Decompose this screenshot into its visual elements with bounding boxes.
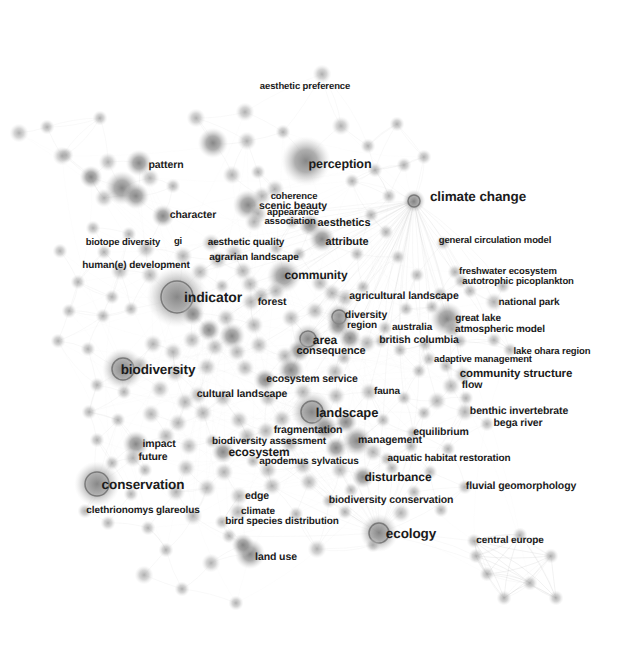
term-label[interactable]: ecosystem service <box>266 373 358 385</box>
term-label[interactable]: human(e) development <box>82 260 189 271</box>
term-label[interactable]: cultural landscape <box>197 388 287 400</box>
term-label[interactable]: edge <box>245 490 269 502</box>
term-label[interactable]: clethrionomys glareolus <box>86 505 199 516</box>
term-label[interactable]: community <box>284 268 347 282</box>
term-label[interactable]: biotope diversity <box>86 237 160 248</box>
term-label[interactable]: future <box>138 451 167 463</box>
term-label[interactable]: british columbia <box>379 334 459 346</box>
term-label[interactable]: ecology <box>386 526 436 541</box>
term-label[interactable]: conservation <box>102 477 185 492</box>
term-label[interactable]: bega river <box>493 417 542 429</box>
term-label[interactable]: adaptive management <box>434 354 532 365</box>
term-label[interactable]: region <box>347 320 377 331</box>
term-label[interactable]: aquatic habitat restoration <box>388 453 511 464</box>
term-label[interactable]: autotrophic picoplankton <box>462 276 574 287</box>
term-label[interactable]: gi <box>174 236 182 247</box>
term-label[interactable]: management <box>358 434 422 446</box>
network-map-figure: aesthetic preferencepatternperceptioncoh… <box>0 0 632 658</box>
term-label[interactable]: association <box>264 216 315 227</box>
term-label[interactable]: agrarian landscape <box>209 252 298 263</box>
term-label[interactable]: agricultural landscape <box>349 290 458 302</box>
term-label[interactable]: indicator <box>184 289 242 305</box>
term-label[interactable]: consequence <box>296 345 365 357</box>
term-label[interactable]: perception <box>309 157 372 171</box>
term-label[interactable]: bird species distribution <box>225 516 339 527</box>
term-label[interactable]: biodiversity conservation <box>329 494 454 506</box>
term-label[interactable]: fragmentation <box>274 424 343 436</box>
term-label[interactable]: fauna <box>374 386 400 397</box>
term-label[interactable]: aesthetic quality <box>208 237 285 248</box>
term-label[interactable]: general circulation model <box>439 235 552 246</box>
term-label[interactable]: land use <box>255 551 297 563</box>
term-label[interactable]: attribute <box>325 236 368 248</box>
term-label[interactable]: landscape <box>316 405 379 420</box>
term-label[interactable]: benthic invertebrate <box>470 405 568 417</box>
term-label[interactable]: disturbance <box>365 470 432 484</box>
term-label[interactable]: aesthetic preference <box>260 81 350 92</box>
term-label[interactable]: biodiversity <box>121 362 196 377</box>
term-label[interactable]: apodemus sylvaticus <box>259 456 358 467</box>
term-label[interactable]: flow <box>462 379 483 391</box>
term-label[interactable]: atmospheric model <box>455 324 545 335</box>
term-label[interactable]: forest <box>258 296 287 308</box>
term-label[interactable]: aesthetics <box>318 217 371 229</box>
term-label[interactable]: climate change <box>430 189 526 204</box>
term-label[interactable]: great lake <box>455 313 501 324</box>
term-label-layer: aesthetic preferencepatternperceptioncoh… <box>0 0 632 658</box>
term-label[interactable]: national park <box>499 297 560 308</box>
term-label[interactable]: australia <box>392 322 432 333</box>
term-label[interactable]: pattern <box>149 159 184 171</box>
term-label[interactable]: central europe <box>476 535 544 546</box>
term-label[interactable]: fluvial geomorphology <box>466 480 577 492</box>
term-label[interactable]: character <box>170 209 216 221</box>
term-label[interactable]: impact <box>142 438 175 450</box>
